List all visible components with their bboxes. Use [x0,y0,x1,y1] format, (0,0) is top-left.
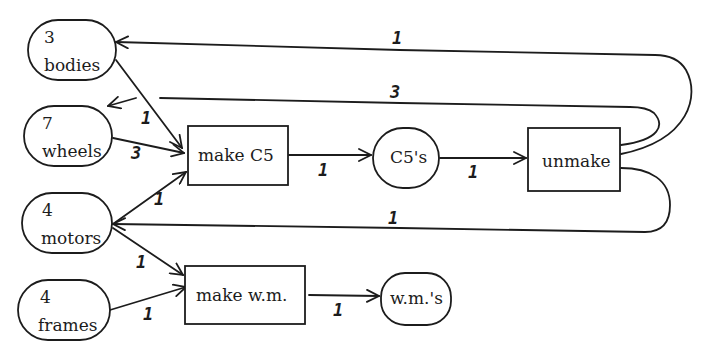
place-c5s: C5's [373,128,439,188]
place-wheels-count: 7 [42,113,53,133]
place-motors: 4 motors [22,193,112,253]
edge-unmake-to-wheels-arrowhead [108,98,136,106]
weight-unmake-to-motors: 1 [388,208,398,228]
edge-make-wm-to-wms [309,295,379,296]
transition-make-c5-label: make C5 [198,145,274,165]
edge-wheels-to-make-c5 [113,138,184,153]
place-frames: 4 frames [18,280,110,340]
place-bodies-label: bodies [44,55,100,75]
place-wheels-label: wheels [42,141,102,161]
petri-net-diagram: 3 bodies 7 wheels 4 motors 4 frames C5's… [0,0,703,357]
transition-make-c5: make C5 [188,126,288,185]
place-c5s-label: C5's [390,147,427,167]
place-wms: w.m.'s [381,273,451,325]
transition-make-wm: make w.m. [185,266,305,324]
place-motors-label: motors [41,228,101,248]
weight-motors-to-make-c5: 1 [154,189,164,209]
place-wheels: 7 wheels [24,106,112,166]
edge-motors-to-make-c5 [113,172,186,224]
weight-make-wm-to-wms: 1 [333,300,343,320]
edge-bodies-to-make-c5 [116,60,182,148]
place-wms-label: w.m.'s [390,288,443,308]
place-frames-label: frames [38,315,97,335]
edge-motors-to-make-wm [113,228,183,275]
place-motors-count: 4 [42,200,53,220]
transition-unmake-label: unmake [542,151,611,171]
weight-make-c5-to-c5s: 1 [318,160,328,180]
weight-bodies-to-make-c5: 1 [141,108,151,128]
weight-c5s-to-unmake: 1 [468,162,478,182]
weight-motors-to-make-wm: 1 [136,252,146,272]
weight-wheels-to-make-c5: 3 [130,143,141,163]
weight-unmake-to-bodies: 1 [392,28,402,48]
place-bodies: 3 bodies [28,20,116,80]
weight-frames-to-make-wm: 1 [143,304,153,324]
place-frames-count: 4 [40,287,51,307]
weight-unmake-to-wheels: 3 [389,82,400,102]
transition-unmake: unmake [528,128,620,191]
place-bodies-count: 3 [44,27,55,47]
transition-make-wm-label: make w.m. [196,285,287,305]
